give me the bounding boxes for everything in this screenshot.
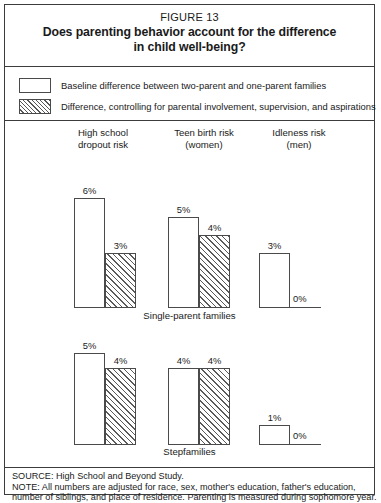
figure-number: FIGURE 13: [5, 11, 374, 23]
bar-value-label: 5%: [168, 204, 199, 215]
column-header-line-2: dropout risk: [53, 139, 153, 151]
bar-value-label: 5%: [74, 340, 105, 351]
legend-swatch-white-box-icon: [19, 78, 51, 93]
column-header-line-2: (women): [154, 139, 254, 151]
bar-controlled: [199, 368, 230, 445]
column-header-line-2: (men): [249, 139, 349, 151]
bar-value-label: 3%: [259, 240, 290, 251]
column-header-line-1: Idleness risk: [249, 127, 349, 139]
bar-value-label: 6%: [74, 185, 105, 196]
bar-controlled-zero: [290, 444, 321, 445]
footer-note-line-1: NOTE: All numbers are adjusted for race,…: [12, 482, 369, 493]
bar-controlled: [199, 235, 230, 308]
footer-divider: [5, 467, 374, 468]
bar-baseline: [259, 253, 290, 308]
legend: Baseline difference between two-parent a…: [5, 67, 374, 121]
column-header-idleness: Idleness risk (men): [249, 127, 349, 150]
column-header-line-1: Teen birth risk: [154, 127, 254, 139]
bar-value-label: 0%: [293, 430, 324, 441]
bar-value-label: 0%: [293, 293, 324, 304]
column-header-teen-birth: Teen birth risk (women): [154, 127, 254, 150]
bar-baseline: [74, 198, 105, 308]
bar-value-label: 4%: [168, 355, 199, 366]
bar-value-label: 4%: [199, 222, 230, 233]
chart-panel-single-parent: 6% 3% 5% 4% 3% 0% Single-parent families: [5, 160, 374, 328]
plot-area: 5% 4% 4% 4% 1% 0%: [5, 327, 374, 445]
bar-value-label: 3%: [105, 240, 136, 251]
figure-title-line-2: in child well-being?: [5, 40, 374, 55]
chart-panel-stepfamilies: 5% 4% 4% 4% 1% 0% Stepfamilies: [5, 327, 374, 467]
figure-title-line-1: Does parenting behavior account for the …: [5, 25, 374, 40]
page-title: Does parenting behavior account for the …: [5, 25, 374, 54]
panel-caption-stepfamilies: Stepfamilies: [5, 446, 374, 457]
bar-baseline: [168, 217, 199, 308]
column-header-line-1: High school: [53, 127, 153, 139]
column-headers: High school dropout risk Teen birth risk…: [5, 127, 374, 153]
plot-area: 6% 3% 5% 4% 3% 0%: [5, 160, 374, 308]
bar-value-label: 1%: [259, 412, 290, 423]
legend-item-baseline: Baseline difference between two-parent a…: [19, 78, 326, 93]
bar-baseline: [259, 425, 290, 445]
legend-item-controlled: Difference, controlling for parental inv…: [19, 99, 376, 114]
footer-note-line-2: number of siblings, and place of residen…: [12, 492, 369, 503]
footer-source: SOURCE: High School and Beyond Study.: [12, 471, 369, 482]
bar-controlled: [105, 368, 136, 445]
bar-controlled: [105, 253, 136, 308]
column-header-dropout: High school dropout risk: [53, 127, 153, 150]
panel-caption-single-parent: Single-parent families: [5, 310, 374, 321]
bar-baseline: [74, 353, 105, 445]
legend-item-label: Difference, controlling for parental inv…: [61, 101, 376, 112]
figure-container: FIGURE 13 Does parenting behavior accoun…: [4, 4, 375, 495]
bar-controlled-zero: [290, 307, 321, 308]
bar-value-label: 4%: [199, 355, 230, 366]
legend-swatch-hatched-box-icon: [19, 99, 51, 114]
bar-baseline: [168, 368, 199, 445]
legend-item-label: Baseline difference between two-parent a…: [61, 80, 326, 91]
figure-title-block: FIGURE 13 Does parenting behavior accoun…: [5, 5, 374, 67]
bar-value-label: 4%: [105, 355, 136, 366]
figure-footer: SOURCE: High School and Beyond Study. NO…: [12, 471, 369, 503]
